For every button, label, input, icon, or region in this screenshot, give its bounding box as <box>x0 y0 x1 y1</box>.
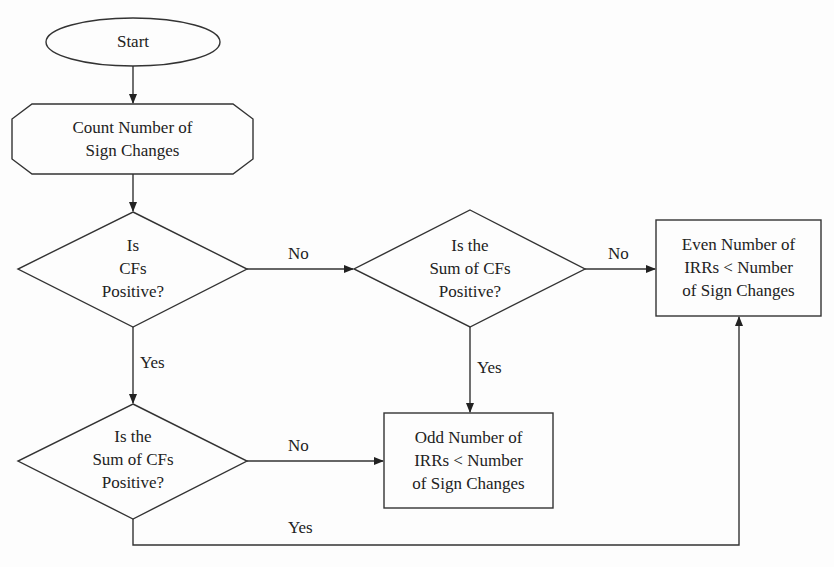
decision2-label: Is the Sum of CFs Positive? <box>395 234 545 303</box>
even-text-line2: IRRs < Number <box>656 256 821 279</box>
decision1-text-line1: Is <box>58 234 208 257</box>
decision1-text-line3: Positive? <box>58 280 208 303</box>
even-result-label: Even Number of IRRs < Number of Sign Cha… <box>656 233 821 302</box>
decision2-text-line2: Sum of CFs <box>395 257 545 280</box>
count-label: Count Number of Sign Changes <box>12 116 253 162</box>
decision1-label: Is CFs Positive? <box>58 234 208 303</box>
start-label: Start <box>46 30 220 53</box>
count-text-line2: Sign Changes <box>12 139 253 162</box>
edge-label-d1-yes: Yes <box>140 353 165 373</box>
count-text-line1: Count Number of <box>12 116 253 139</box>
decision3-text-line1: Is the <box>58 425 208 448</box>
odd-result-label: Odd Number of IRRs < Number of Sign Chan… <box>384 426 553 495</box>
even-text-line3: of Sign Changes <box>656 279 821 302</box>
decision3-text-line3: Positive? <box>58 471 208 494</box>
decision3-label: Is the Sum of CFs Positive? <box>58 425 208 494</box>
odd-text-line3: of Sign Changes <box>384 472 553 495</box>
odd-text-line1: Odd Number of <box>384 426 553 449</box>
edge-label-d2-yes: Yes <box>477 358 502 378</box>
even-text-line1: Even Number of <box>656 233 821 256</box>
decision3-text-line2: Sum of CFs <box>58 448 208 471</box>
decision1-text-line2: CFs <box>58 257 208 280</box>
flowchart-canvas: Start Count Number of Sign Changes Is CF… <box>0 0 834 567</box>
edge-label-d1-no: No <box>288 244 309 264</box>
edge-label-d3-no: No <box>288 436 309 456</box>
edge-label-d2-no: No <box>608 244 629 264</box>
odd-text-line2: IRRs < Number <box>384 449 553 472</box>
decision2-text-line3: Positive? <box>395 280 545 303</box>
decision2-text-line1: Is the <box>395 234 545 257</box>
start-text: Start <box>46 30 220 53</box>
edge-label-d3-yes: Yes <box>288 518 313 538</box>
